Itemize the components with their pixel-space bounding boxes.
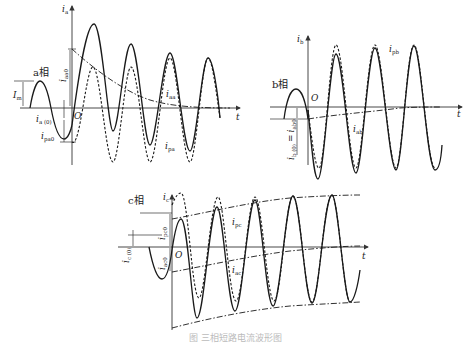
c-lower-envelope (172, 302, 360, 328)
a-origin-label: O (74, 111, 82, 121)
c-ic0-label: ic (0) (121, 247, 132, 263)
a-iaa0-label: iaa0 (58, 69, 69, 82)
a-ipa0-label: ipa0 (41, 131, 55, 143)
panel-phase-c: ic t O c相 ipc0 ic (0) iac0 ipc iac (118, 192, 368, 330)
c-upper-envelope (172, 195, 360, 219)
c-ipc0-label: ipc0 (157, 227, 169, 240)
c-iac-label: iac (232, 265, 241, 276)
c-y-axis-label: ic (163, 192, 169, 203)
b-t-label: t (457, 109, 461, 119)
a-t-label: t (236, 112, 240, 122)
c-periodic-current (172, 193, 350, 302)
panel-phase-b: ib t O b相 ipb iab ib (0)=iab0 (270, 34, 462, 179)
a-ipa-label: ipa (165, 141, 175, 153)
c-t-label: t (362, 251, 366, 261)
c-prefault-wave (149, 247, 172, 279)
b-periodic-current (308, 45, 435, 168)
a-phase-label: a相 (33, 66, 49, 78)
b-y-axis-label: ib (297, 34, 304, 45)
a-Im-label: Im (12, 90, 23, 101)
c-total-current (172, 195, 360, 318)
a-y-axis-label: ia (62, 4, 69, 15)
c-origin-label: O (175, 250, 183, 260)
b-iab-label: iab (353, 124, 363, 135)
b-phase-label: b相 (272, 78, 288, 90)
figure-caption: 图 三相短路电流波形图 (0, 331, 471, 344)
b-origin-label: O (311, 93, 319, 103)
b-ipb-label: ipb (389, 44, 399, 56)
b-ib0-iab0-label: ib (0)=iab0 (286, 119, 297, 160)
a-ia0-label: ia (0) (36, 114, 52, 125)
panel-phase-a: ia t O a相 Im ia (0) ipa0 iaa0 iaa ipa (12, 4, 240, 165)
c-ipc-label: ipc (232, 217, 242, 229)
c-iac0-label: iac0 (157, 257, 168, 270)
a-iaa-label: iaa (166, 89, 176, 100)
c-phase-label: c相 (128, 194, 144, 206)
a-prefault-wave (30, 81, 72, 139)
b-total-current (308, 46, 442, 179)
a-aperiodic-current (72, 49, 230, 108)
a-total-current (72, 24, 220, 151)
b-prefault-wave (284, 89, 308, 119)
